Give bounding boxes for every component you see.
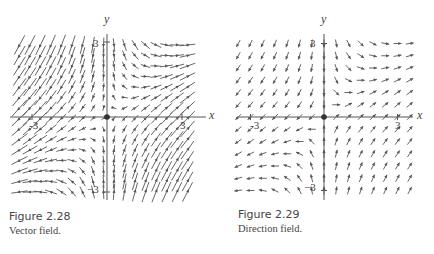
figure-number: Figure 2.28 [9, 210, 71, 224]
equilibrium-point [321, 114, 327, 120]
y-tick-3: 3 [310, 37, 316, 49]
figure-direction-field: y x 3 −3 -3 3 [217, 0, 434, 205]
y-tick-neg3: −3 [304, 181, 316, 193]
x-axis-label: x [209, 108, 214, 123]
equilibrium-point [104, 114, 110, 120]
caption-figure-2-28: Figure 2.28 Vector field. [9, 210, 71, 237]
figure-number: Figure 2.29 [238, 208, 302, 222]
x-tick-neg3: -3 [250, 119, 259, 131]
y-tick-neg3: −3 [87, 183, 99, 195]
direction-field-plot [217, 0, 434, 205]
caption-figure-2-29: Figure 2.29 Direction field. [238, 208, 302, 235]
x-tick-neg3: -3 [29, 119, 38, 131]
y-axis-label: y [321, 12, 326, 27]
x-axis-label: x [417, 108, 422, 123]
y-axis-label: y [104, 12, 109, 27]
y-tick-3: 3 [93, 37, 99, 49]
vector-field-plot [0, 0, 217, 205]
figure-vector-field: y x 3 −3 -3 3 [0, 0, 217, 205]
field-arrows [11, 35, 195, 202]
x-tick-3: 3 [180, 119, 186, 131]
x-tick-3: 3 [395, 119, 401, 131]
figure-caption: Direction field. [238, 222, 302, 235]
figure-caption: Vector field. [9, 224, 71, 237]
